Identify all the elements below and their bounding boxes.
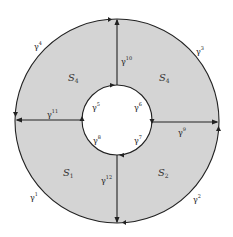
label-gamma-2: γ2 <box>193 193 201 204</box>
label-gamma-1: γ1 <box>30 191 38 202</box>
label-gamma-7: γ7 <box>134 134 142 145</box>
label-gamma-8: γ8 <box>93 134 101 145</box>
label-gamma-5: γ5 <box>92 101 100 112</box>
annulus-diagram: S4 S4 S1 S2 γ1 γ2 γ3 γ4 γ5 γ6 γ7 γ8 γ9 γ… <box>0 0 233 237</box>
label-gamma-4: γ4 <box>34 40 42 51</box>
label-gamma-3: γ3 <box>196 45 204 56</box>
label-gamma-6: γ6 <box>134 101 142 112</box>
